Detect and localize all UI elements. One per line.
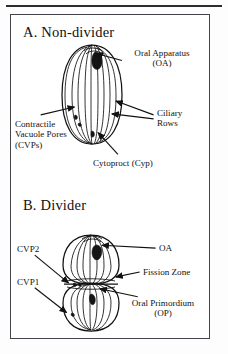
label-contractile-vacuole-pores: Contractile Vacuole Pores (CVPs) — [15, 119, 99, 150]
arrow-cvps — [41, 107, 75, 115]
figure-page: A. Non-divider — [0, 0, 228, 354]
arrow-ciliary-rows-upper — [116, 101, 154, 115]
arrow-fission-zone — [116, 272, 140, 277]
arrow-cytoproct — [98, 133, 118, 155]
label-oa: OA — [159, 243, 203, 253]
panel-b-divider: B. Divider — [11, 193, 209, 340]
label-ciliary-rows: Ciliary Rows — [157, 108, 209, 129]
arrow-oa — [102, 245, 155, 248]
label-oral-primordium: Oral Primordium (OP) — [119, 298, 207, 319]
arrow-ciliary-rows-lower — [112, 114, 154, 119]
label-cytoproct: Cytoproct (Cyp) — [93, 158, 189, 168]
label-cvp1: CVP1 — [17, 277, 59, 287]
label-oral-apparatus: Oral Apparatus (OA) — [119, 48, 205, 69]
arrow-oral-primordium — [100, 289, 138, 297]
panel-a-non-divider: A. Non-divider — [11, 15, 209, 193]
arrow-cvp1 — [35, 288, 67, 313]
label-fission-zone: Fission Zone — [143, 267, 207, 277]
top-horizontal-rule — [6, 5, 222, 7]
figure-frame: A. Non-divider — [10, 14, 210, 339]
label-cvp2: CVP2 — [17, 244, 59, 254]
